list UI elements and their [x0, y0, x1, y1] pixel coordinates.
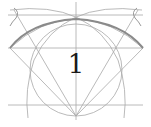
corner-arc-left [10, 8, 18, 26]
secondary-arc-left [10, 19, 76, 48]
secondary-arc-right [76, 19, 143, 48]
geometric-construction-diagram: 1 [0, 0, 151, 127]
diagram-label: 1 [68, 49, 85, 79]
apex-line-left-inner [14, 10, 76, 116]
apex-line-left-outer [10, 48, 76, 116]
